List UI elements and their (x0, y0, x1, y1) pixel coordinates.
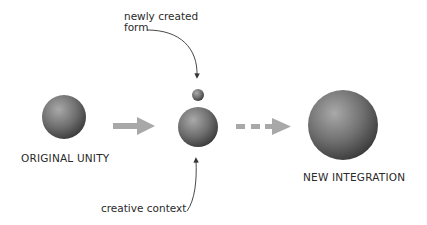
creative-context-pointer-icon (187, 160, 196, 211)
diagram-canvas (0, 0, 427, 225)
middle-unity-sphere (178, 107, 218, 147)
newly-created-line2: form (124, 22, 198, 33)
new-integration-label: NEW INTEGRATION (303, 171, 405, 183)
creative-context-label: creative context (101, 203, 186, 214)
newly-created-label: newly created form (124, 11, 198, 33)
newly-created-form-sphere (192, 89, 204, 101)
new-integration-sphere (308, 90, 378, 160)
newly-created-pointer-icon (147, 30, 197, 76)
solid-arrow-icon (113, 117, 155, 135)
original-unity-label: ORIGINAL UNITY (21, 152, 109, 164)
dashed-arrow-icon (236, 118, 291, 135)
original-unity-sphere (42, 95, 86, 139)
